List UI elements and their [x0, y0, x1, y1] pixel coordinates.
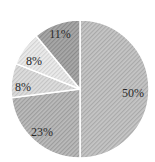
slice-label: 23%: [31, 125, 53, 139]
slice-label: 8%: [26, 54, 42, 68]
slice-label: 8%: [15, 80, 31, 94]
pie-slice: [12, 89, 80, 158]
pie-chart: 50%23%8%8%11%: [0, 0, 155, 162]
slice-label: 50%: [122, 86, 144, 100]
slice-label: 11%: [49, 27, 71, 41]
